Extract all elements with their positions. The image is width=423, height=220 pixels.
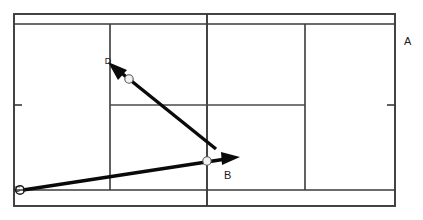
- tennis-court-diagram: A B C D: [0, 0, 423, 220]
- shot-to-d-shaft: [119, 71, 216, 149]
- doubles-court-boundary: [14, 14, 395, 206]
- label-d: D: [105, 56, 112, 66]
- shot-to-b-shaft: [23, 159, 226, 190]
- label-c: C: [14, 184, 21, 194]
- shot-to-b-arrowhead: [221, 152, 240, 165]
- label-b: B: [224, 169, 231, 181]
- ball-marker-shot-to-b: [203, 157, 211, 165]
- label-a: A: [404, 35, 412, 47]
- ball-marker-shot-to-d: [125, 75, 133, 83]
